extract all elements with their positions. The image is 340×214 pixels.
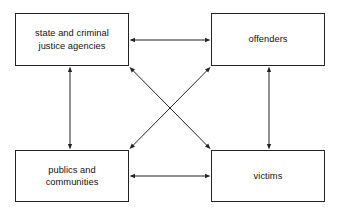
node-victims[interactable]: victims	[211, 150, 325, 202]
node-publics-communities[interactable]: publics and communities	[15, 150, 129, 202]
node-publics-communities-label: publics and communities	[42, 164, 103, 189]
node-victims-label: victims	[250, 170, 287, 183]
node-state-agencies[interactable]: state and criminal justice agencies	[15, 13, 129, 66]
node-offenders-label: offenders	[244, 33, 291, 46]
node-state-agencies-label: state and criminal justice agencies	[31, 27, 113, 52]
node-offenders[interactable]: offenders	[211, 13, 325, 66]
diagram-canvas: state and criminal justice agencies offe…	[0, 0, 340, 214]
